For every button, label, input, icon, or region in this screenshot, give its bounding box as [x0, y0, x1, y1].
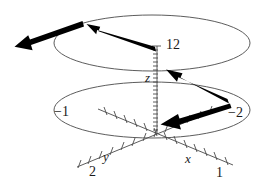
cylinder-circles	[54, 15, 250, 138]
upper-circle-ellipse	[54, 15, 250, 71]
z-axis-label: z	[145, 71, 150, 84]
y-axis-end-value-label: 2	[89, 165, 96, 179]
vector-diagram-canvas	[0, 0, 272, 191]
x-axis-ticks	[104, 107, 228, 165]
z-axis-group	[152, 46, 161, 134]
z-axis-ticks	[152, 46, 161, 130]
upper-right-vector	[87, 24, 157, 52]
inner-lower-vector	[161, 104, 232, 130]
upper-left-vector	[15, 21, 85, 50]
left-circle-value-label: −1	[54, 105, 69, 119]
vector-arrows	[15, 21, 232, 130]
z-top-value-label: 12	[166, 38, 180, 52]
right-circle-value-label: −2	[228, 106, 243, 120]
inner-upper-vector	[166, 70, 229, 104]
x-axis-end-value-label: 1	[216, 166, 223, 180]
x-axis-label: x	[185, 152, 191, 165]
y-axis-label: y	[103, 150, 109, 163]
